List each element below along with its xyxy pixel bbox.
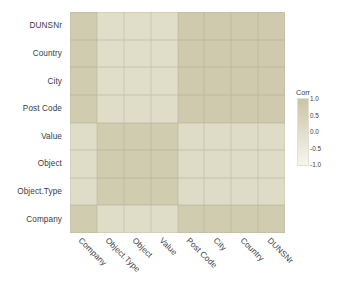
x-axis-tick-label: Value [158,236,179,257]
heatmap-cell [258,67,285,95]
heatmap-cell-grid [70,12,285,233]
heatmap-cell [124,123,151,151]
heatmap-cell [151,205,178,233]
heatmap-cell [70,150,97,178]
legend-title: Corr [296,88,310,97]
heatmap-cell [97,123,124,151]
legend-tick-label: 1.0 [310,95,319,102]
heatmap-cell [151,178,178,206]
heatmap-cell [70,67,97,95]
heatmap-cell [124,205,151,233]
heatmap-cell [97,150,124,178]
heatmap-cell [178,150,205,178]
legend-tick-labels: 1.00.50.0-0.5-1.0 [310,98,338,164]
x-axis-tick-slot: Value [151,233,178,289]
heatmap-cell [258,178,285,206]
heatmap-cell [231,178,258,206]
heatmap-cell [178,67,205,95]
heatmap-cell [204,150,231,178]
heatmap-plot-area [70,12,285,233]
heatmap-cell [124,12,151,40]
heatmap-cell [151,40,178,68]
heatmap-cell [231,205,258,233]
heatmap-cell [97,178,124,206]
y-axis-tick-label: Value [0,123,66,151]
y-axis-tick-label: Object [0,150,66,178]
heatmap-cell [97,40,124,68]
heatmap-cell [124,67,151,95]
heatmap-cell [204,95,231,123]
heatmap-cell [97,67,124,95]
y-axis-tick-label: DUNSNr [0,12,66,40]
heatmap-cell [204,67,231,95]
heatmap-cell [178,40,205,68]
heatmap-cell [204,12,231,40]
legend-tick-label: -0.5 [310,144,321,151]
x-axis-tick-slot: Object [124,233,151,289]
heatmap-cell [97,205,124,233]
heatmap-cell [178,178,205,206]
heatmap-cell [231,67,258,95]
heatmap-cell [258,95,285,123]
color-legend: Corr 1.00.50.0-0.5-1.0 [296,88,340,178]
x-axis-tick-slot: Company [70,233,97,289]
heatmap-cell [178,12,205,40]
heatmap-cell [231,40,258,68]
heatmap-cell [124,40,151,68]
heatmap-cell [258,205,285,233]
x-axis-tick-slot: Object.Type [97,233,124,289]
heatmap-cell [204,40,231,68]
correlation-heatmap-figure: DUNSNr Country City Post Code Value Obje… [0,0,340,294]
heatmap-cell [231,95,258,123]
heatmap-cell [151,95,178,123]
heatmap-cell [151,67,178,95]
heatmap-cell [178,123,205,151]
heatmap-cell [124,150,151,178]
heatmap-cell [124,95,151,123]
heatmap-cell [258,40,285,68]
x-axis-tick-label: DUNSNr [265,236,294,265]
heatmap-cell [204,123,231,151]
heatmap-cell [70,12,97,40]
x-axis-tick-slot: Country [231,233,258,289]
y-axis-tick-label: Country [0,40,66,68]
heatmap-cell [70,123,97,151]
heatmap-cell [70,95,97,123]
heatmap-cell [151,150,178,178]
legend-tick-label: -1.0 [310,161,321,168]
heatmap-cell [258,123,285,151]
heatmap-cell [204,178,231,206]
heatmap-cell [231,150,258,178]
heatmap-cell [70,205,97,233]
heatmap-cell [70,178,97,206]
x-axis-tick-slot: City [204,233,231,289]
heatmap-cell [258,12,285,40]
y-axis-tick-label: Company [0,205,66,233]
x-axis-tick-slot: DUNSNr [258,233,285,289]
heatmap-cell [70,40,97,68]
heatmap-cell [151,12,178,40]
y-axis-tick-label: Post Code [0,95,66,123]
y-axis-tick-label: Object.Type [0,178,66,206]
heatmap-cell [178,95,205,123]
x-axis-tick-label: City [211,236,228,253]
heatmap-cell [231,12,258,40]
x-axis-labels: CompanyObject.TypeObjectValuePost CodeCi… [70,233,285,291]
heatmap-cell [204,205,231,233]
legend-tick-label: 0.0 [310,128,319,135]
heatmap-cell [178,205,205,233]
legend-tick-label: 0.5 [310,111,319,118]
heatmap-cell [258,150,285,178]
y-axis-labels: DUNSNr Country City Post Code Value Obje… [0,12,66,233]
heatmap-cell [231,123,258,151]
heatmap-cell [97,95,124,123]
y-axis-tick-label: City [0,67,66,95]
heatmap-cell [97,12,124,40]
heatmap-cell [124,178,151,206]
x-axis-tick-slot: Post Code [178,233,205,289]
heatmap-cell [151,123,178,151]
legend-color-bar [297,98,309,166]
